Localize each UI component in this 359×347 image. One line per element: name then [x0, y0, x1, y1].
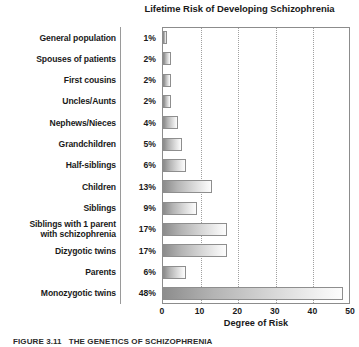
x-tick-label: 10 — [185, 306, 215, 316]
x-axis-ticks: 01020304050 — [0, 306, 359, 318]
category-label-line: Siblings with 1 parent — [0, 219, 116, 229]
category-label: Uncles/Aunts — [0, 96, 116, 106]
bar-row: Monozygotic twins48% — [0, 283, 359, 304]
value-label: 2% — [126, 54, 156, 64]
category-label: Dizygotic twins — [0, 246, 116, 256]
bar — [163, 52, 171, 65]
x-tick-label: 40 — [297, 306, 327, 316]
bar — [163, 31, 167, 44]
value-label: 2% — [126, 75, 156, 85]
category-label: Siblings — [0, 203, 116, 213]
bar — [163, 138, 182, 151]
figure-caption-text: THE GENETICS OF SCHIZOPHRENIA — [69, 337, 213, 346]
figure-caption: FIGURE 3.11THE GENETICS OF SCHIZOPHRENIA — [13, 337, 213, 347]
bar — [163, 202, 197, 215]
category-label: Siblings with 1 parentwith schizophrenia — [0, 219, 116, 239]
category-label: First cousins — [0, 75, 116, 85]
bar — [163, 223, 227, 236]
bar-row: Dizygotic twins17% — [0, 240, 359, 261]
bar — [163, 244, 227, 257]
bar-row: General population1% — [0, 27, 359, 48]
category-label: Parents — [0, 267, 116, 277]
x-tick-label: 20 — [222, 306, 252, 316]
value-label: 4% — [126, 118, 156, 128]
value-label: 48% — [126, 288, 156, 298]
category-label-line: with schizophrenia — [0, 229, 116, 239]
x-tick-label: 30 — [260, 306, 290, 316]
bar — [163, 159, 186, 172]
category-label: Half-siblings — [0, 160, 116, 170]
bar-row: Parents6% — [0, 261, 359, 282]
x-axis-label: Degree of Risk — [162, 318, 350, 328]
figure-genetics-of-schizophrenia: Lifetime Risk of Developing Schizophreni… — [0, 0, 359, 347]
value-label: 17% — [126, 224, 156, 234]
bar-row: Uncles/Aunts2% — [0, 91, 359, 112]
bar — [163, 116, 178, 129]
bar-row: Half-siblings6% — [0, 155, 359, 176]
value-label: 5% — [126, 139, 156, 149]
category-label: Children — [0, 182, 116, 192]
x-tick-label: 0 — [147, 306, 177, 316]
bar-row: Siblings9% — [0, 197, 359, 218]
bar-row: Nephews/Nieces4% — [0, 112, 359, 133]
figure-caption-number: FIGURE 3.11 — [13, 337, 62, 346]
bar-row: First cousins2% — [0, 70, 359, 91]
x-tick-label: 50 — [335, 306, 359, 316]
bar-row: Siblings with 1 parentwith schizophrenia… — [0, 219, 359, 240]
category-label: Spouses of patients — [0, 54, 116, 64]
bar — [163, 266, 186, 279]
value-label: 2% — [126, 96, 156, 106]
value-label: 1% — [126, 33, 156, 43]
bar-row: Children13% — [0, 176, 359, 197]
category-label: Nephews/Nieces — [0, 118, 116, 128]
bar — [163, 74, 171, 87]
bar — [163, 180, 212, 193]
bar-row: Spouses of patients2% — [0, 48, 359, 69]
value-label: 17% — [126, 246, 156, 256]
category-label: Monozygotic twins — [0, 288, 116, 298]
bar-row: Grandchildren5% — [0, 134, 359, 155]
value-label: 6% — [126, 267, 156, 277]
value-label: 6% — [126, 160, 156, 170]
value-label: 13% — [126, 182, 156, 192]
bar — [163, 287, 343, 300]
bar — [163, 95, 171, 108]
chart-title: Lifetime Risk of Developing Schizophreni… — [120, 3, 359, 14]
bar-rows: General population1%Spouses of patients2… — [0, 27, 359, 304]
value-label: 9% — [126, 203, 156, 213]
category-label: General population — [0, 33, 116, 43]
category-label: Grandchildren — [0, 139, 116, 149]
